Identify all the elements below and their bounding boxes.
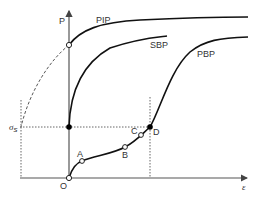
pbp-label: PBP: [197, 49, 215, 59]
pip-extension-curve: [21, 45, 69, 127]
sbp-sigma-point: [66, 124, 72, 130]
point-a: [80, 159, 85, 164]
point-b-label: B: [122, 150, 128, 160]
stress-strain-diagram: P PIP SBP PBP A B C D O ε σs: [0, 0, 260, 201]
epsilon-axis-label: ε: [242, 182, 246, 192]
point-c: [139, 133, 144, 138]
point-a-label: A: [77, 149, 83, 159]
point-c-label: C: [131, 126, 138, 136]
point-o: [66, 175, 71, 180]
sigma-s-label: σs: [9, 122, 17, 134]
point-b: [123, 145, 128, 150]
pip-axis-point: [66, 42, 71, 47]
sbp-label: SBP: [150, 40, 168, 50]
p-axis-label: P: [59, 16, 65, 26]
origin-label: O: [60, 181, 67, 191]
point-d: [147, 124, 153, 130]
pip-label: PIP: [96, 15, 111, 25]
point-d-label: D: [153, 127, 160, 137]
